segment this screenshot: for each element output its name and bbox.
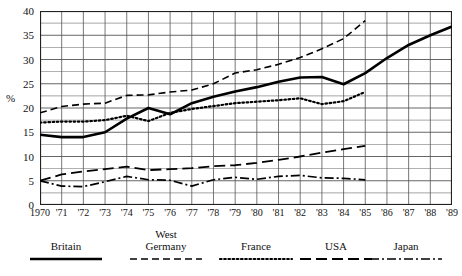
y-tick-label: 10 [23,151,34,162]
legend-item-japan[interactable]: Japan [358,228,454,263]
x-tick-label: '72 [77,207,89,219]
x-tick-label: '87 [403,207,415,219]
x-tick-label: '71 [56,207,68,219]
x-tick-label: '85 [359,207,371,219]
series-line-france [40,92,365,123]
y-axis-ticks: 0510152025303540 [0,0,36,205]
legend-label-spacer [18,228,114,240]
y-tick-label: 15 [23,127,34,138]
x-tick-label: '86 [381,207,393,219]
chart-figure: % 0510152025303540 1970'71'72'73'74'75'7… [0,0,462,276]
chart-svg [40,11,452,205]
chart-legend: BritainWestGermany France USA Japan [0,228,462,276]
y-tick-label: 30 [23,54,34,65]
y-tick-label: 5 [29,175,35,186]
y-tick-label: 25 [23,78,34,89]
x-tick-label: '73 [99,207,111,219]
plot-area [40,11,452,205]
x-tick-label: '82 [294,207,306,219]
legend-label: Germany [118,240,214,252]
x-tick-label: 1970 [30,207,50,219]
legend-item-britain[interactable]: Britain [18,228,114,263]
legend-label: Britain [18,240,114,252]
x-axis-ticks: 1970'71'72'73'74'75'76'77'78'79'80'81'82… [40,207,452,223]
x-tick-label: '80 [251,207,263,219]
x-tick-label: '78 [208,207,220,219]
x-tick-label: '76 [164,207,176,219]
series-line-usa [40,146,365,181]
x-tick-label: '81 [273,207,285,219]
x-tick-label: '83 [316,207,328,219]
series-line-britain [40,27,452,138]
legend-swatch-dashdot [369,255,443,263]
legend-swatch-dashed [129,255,203,263]
legend-label-spacer [358,228,454,240]
x-tick-label: '88 [424,207,436,219]
legend-item-germany[interactable]: WestGermany [118,228,214,263]
y-tick-label: 40 [23,6,34,17]
legend-label: Japan [358,240,454,252]
y-tick-label: 35 [23,30,34,41]
x-tick-label: '79 [229,207,241,219]
x-tick-label: '89 [446,207,458,219]
x-tick-label: '75 [143,207,155,219]
legend-label: West [118,228,214,240]
x-tick-label: '84 [338,207,350,219]
x-tick-label: '74 [121,207,133,219]
legend-swatch-solid [29,255,103,263]
legend-swatch-dotted [219,255,293,263]
y-tick-label: 20 [23,103,34,114]
x-tick-label: '77 [186,207,198,219]
